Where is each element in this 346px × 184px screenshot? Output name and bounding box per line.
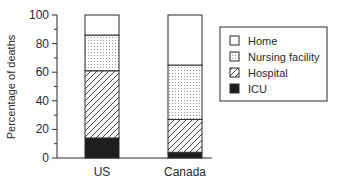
legend-label: Home	[248, 35, 277, 47]
legend-label: ICU	[248, 83, 267, 95]
segment-hospital	[85, 71, 119, 138]
segment-home	[85, 15, 119, 35]
segment-hospital	[168, 119, 202, 152]
y-axis-title: Percentage of deaths	[5, 34, 17, 139]
legend-label: Nursing facility	[248, 51, 320, 63]
legend: HomeNursing facilityHospitalICU	[220, 27, 327, 101]
x-category-label: Canada	[164, 165, 206, 179]
legend-swatch-icu	[230, 84, 239, 93]
bars	[85, 15, 202, 158]
x-axis-labels: USCanada	[94, 165, 207, 179]
y-tick-label: 0	[42, 151, 49, 165]
bar-canada	[168, 15, 202, 158]
legend-swatch-hospital	[230, 68, 239, 77]
legend-swatch-home	[230, 36, 239, 45]
segment-icu	[85, 138, 119, 158]
stacked-bar-chart: 020406080100 USCanada Percentage of deat…	[0, 0, 346, 184]
segment-nursing-facility	[168, 65, 202, 119]
legend-swatch-nursing-facility	[230, 52, 239, 61]
segment-nursing-facility	[85, 35, 119, 71]
y-tick-label: 100	[29, 8, 49, 22]
x-category-label: US	[94, 165, 111, 179]
y-tick-label: 80	[36, 37, 50, 51]
y-tick-label: 20	[36, 122, 50, 136]
legend-label: Hospital	[248, 67, 288, 79]
segment-icu	[168, 152, 202, 158]
segment-home	[168, 15, 202, 65]
y-tick-label: 40	[36, 94, 50, 108]
y-tick-label: 60	[36, 65, 50, 79]
bar-us	[85, 15, 119, 158]
